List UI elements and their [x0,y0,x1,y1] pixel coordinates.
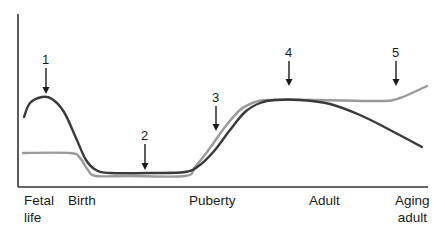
arrow-3-head-icon [213,124,220,131]
arrow-2-head-icon [142,163,149,170]
x-label-fetal-life: Fetallife [24,192,54,226]
arrow-4-head-icon [286,79,293,86]
annotation-arrows [43,61,400,170]
annotation-label-5: 5 [392,45,399,60]
annotation-label-3: 3 [212,90,219,105]
arrow-1-head-icon [43,87,50,94]
annotation-label-1: 1 [42,52,49,67]
annotation-label-2: 2 [141,128,148,143]
gray-curve [23,86,427,177]
x-label-birth: Birth [68,192,96,209]
x-label-adult: Adult [309,192,340,209]
arrow-5-head-icon [393,79,400,86]
x-label-puberty: Puberty [189,192,236,209]
x-label-aging-adult: Agingadult [395,192,430,226]
annotation-label-4: 4 [285,45,292,60]
